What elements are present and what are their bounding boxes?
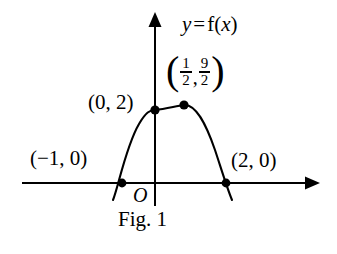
- function-label-equals: =: [191, 12, 207, 36]
- graph-canvas: [0, 0, 337, 254]
- function-label-x: x: [221, 12, 230, 36]
- function-label-y: y: [182, 12, 191, 36]
- point-label-vertex: ( 1 2 , 9 2 ): [166, 56, 225, 88]
- point-label-left-root: (−1, 0): [30, 148, 87, 169]
- parabola-curve: [113, 105, 232, 200]
- function-label-close-paren: ): [231, 12, 238, 36]
- vertex-open-paren: (: [166, 55, 179, 86]
- y-axis-arrowhead: [149, 12, 162, 27]
- vertex-y-denominator: 2: [199, 73, 211, 88]
- function-label: y=f(x): [182, 14, 238, 35]
- point-label-right-root: (2, 0): [231, 150, 277, 171]
- point-marker-right-root: [222, 179, 231, 188]
- point-marker-vertex: [179, 100, 188, 109]
- x-axis-arrowhead: [305, 177, 320, 190]
- vertex-y-fraction: 9 2: [199, 56, 211, 88]
- vertex-close-paren: ): [211, 55, 224, 86]
- vertex-x-fraction: 1 2: [180, 56, 192, 88]
- figure-caption: Fig. 1: [118, 209, 167, 230]
- point-marker-left-root: [118, 179, 127, 188]
- origin-label: O: [133, 185, 147, 205]
- point-label-y-intercept: (0, 2): [88, 92, 134, 113]
- vertex-comma: ,: [193, 67, 198, 88]
- figure-container: y=f(x) (0, 2) (−1, 0) (2, 0) ( 1 2 , 9 2…: [0, 0, 337, 254]
- vertex-x-denominator: 2: [180, 73, 192, 88]
- vertex-x-numerator: 1: [180, 56, 192, 71]
- vertex-y-numerator: 9: [199, 56, 211, 71]
- point-marker-y-intercept: [150, 105, 159, 114]
